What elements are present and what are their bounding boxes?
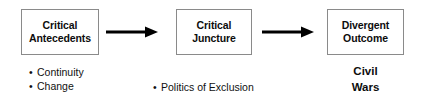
arrow-right-icon-antecedents-to-juncture: [106, 25, 158, 39]
annotation-list-critical-juncture: •Politics of Exclusion: [153, 80, 254, 94]
arrow-right-icon-juncture-to-outcome: [262, 25, 314, 39]
list-item-label: Continuity: [37, 66, 84, 78]
node-box-critical-antecedents[interactable]: Critical Antecedents: [21, 9, 99, 55]
list-item: •Politics of Exclusion: [153, 80, 254, 94]
node-label-divergent-outcome: Divergent Outcome: [339, 19, 393, 46]
list-item: •Continuity: [29, 65, 84, 79]
bullet-icon: •: [153, 80, 161, 94]
list-item: •Change: [29, 79, 84, 93]
node-box-critical-juncture[interactable]: Critical Juncture: [176, 9, 252, 55]
list-item-label: Politics of Exclusion: [161, 81, 254, 93]
bullet-icon: •: [29, 79, 37, 93]
node-box-divergent-outcome[interactable]: Divergent Outcome: [327, 9, 404, 55]
list-item-label: Change: [37, 80, 74, 92]
flow-diagram: Critical Antecedents Critical Juncture D…: [0, 0, 426, 110]
node-label-critical-antecedents: Critical Antecedents: [26, 19, 94, 46]
bullet-icon: •: [29, 65, 37, 79]
node-label-critical-juncture: Critical Juncture: [189, 19, 239, 46]
annotation-text-divergent-outcome: Civil Wars: [327, 64, 404, 95]
annotation-list-critical-antecedents: •Continuity •Change: [29, 65, 84, 94]
